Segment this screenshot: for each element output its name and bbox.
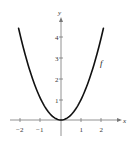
y-tick-label: 3 <box>55 55 59 63</box>
y-axis-label: y <box>57 9 62 17</box>
y-tick-label: 4 <box>55 34 59 42</box>
x-tick-label: 2 <box>100 126 104 134</box>
y-axis-arrow-icon <box>59 17 63 22</box>
x-axis-label: x <box>122 117 127 125</box>
curve-label: f <box>100 58 104 68</box>
x-axis-arrow-icon <box>117 118 122 122</box>
x-tick-label: −1 <box>36 126 44 134</box>
parabola-chart: x y −2 −1 1 2 1 2 3 4 f <box>0 0 128 142</box>
x-tick-label: 1 <box>80 126 84 134</box>
y-tick-label: 2 <box>55 76 59 84</box>
y-tick-label: 1 <box>55 97 59 105</box>
x-tick-label: −2 <box>16 126 24 134</box>
